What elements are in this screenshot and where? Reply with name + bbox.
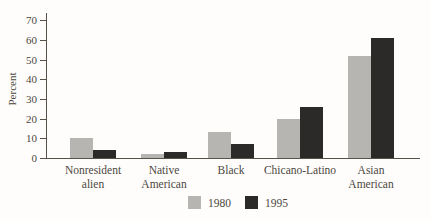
bar-1995-black [231,144,254,158]
bar-1980-nonresident-alien [70,138,93,158]
bar-chart-figure: Percent 010203040506070 Nonresident alie… [0,0,431,220]
y-tick-10 [40,138,46,139]
bar-1995-chicano-latino [300,107,323,158]
legend-label-1980: 1980 [208,197,231,209]
bar-1980-black [208,132,231,158]
bar-1995-nonresident-alien [93,150,116,158]
y-tick-40 [40,79,46,80]
y-tick-label-50: 50 [15,54,37,66]
y-tick-label-40: 40 [15,73,37,85]
category-label-asian-american: Asian American [323,164,419,191]
y-tick-label-10: 10 [15,132,37,144]
legend-label-1995: 1995 [265,197,288,209]
y-tick-label-30: 30 [15,93,37,105]
y-tick-60 [40,40,46,41]
bar-1995-asian-american [371,38,394,158]
y-tick-label-60: 60 [15,34,37,46]
legend-swatch-1995 [245,196,258,209]
x-axis-line [46,158,420,159]
bar-1980-chicano-latino [277,119,300,158]
bar-1980-native-american [141,154,164,158]
y-axis-line [46,13,47,159]
y-tick-70 [40,20,46,21]
y-tick-0 [40,158,46,159]
y-tick-50 [40,60,46,61]
legend: 1980 1995 [188,196,288,209]
y-tick-label-70: 70 [15,14,37,26]
y-tick-label-0: 0 [15,152,37,164]
y-tick-30 [40,99,46,100]
y-tick-20 [40,119,46,120]
legend-swatch-1980 [188,196,201,209]
y-tick-label-20: 20 [15,113,37,125]
bar-1980-asian-american [348,56,371,158]
bar-1995-native-american [164,152,187,158]
